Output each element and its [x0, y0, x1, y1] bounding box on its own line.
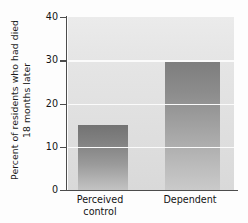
y-axis-title: Percent of residents who had died 18 mon…: [9, 20, 32, 180]
y-tick-10: [60, 147, 66, 148]
y-tick-label-wrap-20: 20: [34, 104, 58, 105]
bar-chart: Percent of residents who had died 18 mon…: [0, 0, 248, 223]
y-tick-label-20: 20: [34, 98, 58, 109]
x-axis-label-dependent: Dependent: [148, 194, 232, 206]
y-tick-40: [60, 17, 66, 18]
y-tick-20: [60, 104, 66, 105]
y-tick-label-wrap-30: 30: [34, 60, 58, 61]
y-tick-label-wrap-0: 0: [34, 190, 58, 191]
x-axis-label-perceived-control: Perceived control: [58, 194, 142, 217]
y-tick-0: [60, 190, 66, 191]
y-tick-label-40: 40: [34, 11, 58, 22]
y-tick-label-wrap-10: 10: [34, 147, 58, 148]
bar-dependent: [165, 60, 220, 190]
x-axis-line: [62, 190, 238, 191]
plot-area: [68, 17, 234, 190]
bar-perceived-control: [78, 125, 128, 190]
gridline-30: [68, 60, 234, 62]
gridline-20: [68, 104, 234, 106]
y-tick-label-10: 10: [34, 141, 58, 152]
y-tick-30: [60, 60, 66, 61]
y-tick-label-wrap-40: 40: [34, 17, 58, 18]
y-tick-label-0: 0: [34, 184, 58, 195]
y-tick-label-30: 30: [34, 54, 58, 65]
gridline-10: [68, 147, 234, 149]
